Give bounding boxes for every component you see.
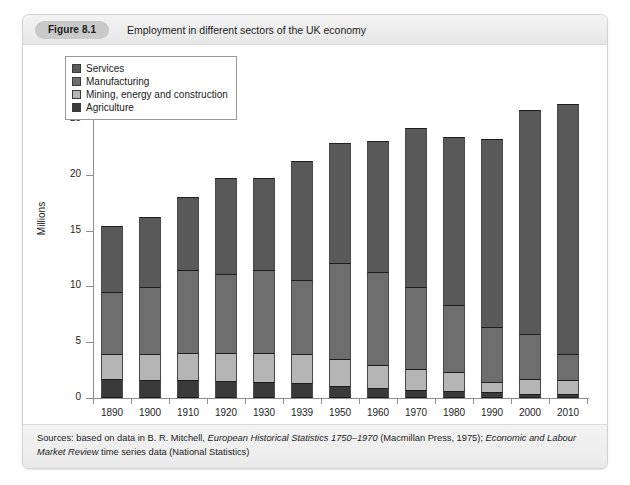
bar-segment[interactable]: [367, 272, 389, 365]
x-axis-tick: [587, 398, 588, 404]
bar-segment[interactable]: [367, 365, 389, 388]
bar-segment[interactable]: [253, 178, 275, 270]
legend-swatch-icon: [72, 103, 81, 112]
bar-stack[interactable]: [215, 178, 237, 398]
bar-stack[interactable]: [291, 161, 313, 398]
bar-segment[interactable]: [291, 280, 313, 355]
x-axis-tick: [397, 398, 398, 404]
x-axis-tick: [435, 398, 436, 404]
bar-segment[interactable]: [101, 226, 123, 292]
bar-segment[interactable]: [253, 353, 275, 382]
bar-segment[interactable]: [291, 354, 313, 383]
y-axis-tick: [86, 175, 93, 176]
x-axis-tick: [549, 398, 550, 404]
bar-segment[interactable]: [215, 178, 237, 274]
bar-segment[interactable]: [329, 263, 351, 359]
bar-stack[interactable]: [329, 143, 351, 398]
legend-item[interactable]: Manufacturing: [72, 75, 228, 88]
bar-segment[interactable]: [177, 380, 199, 398]
bar-stack[interactable]: [101, 226, 123, 398]
bar-segment[interactable]: [329, 359, 351, 386]
bar-segment[interactable]: [367, 388, 389, 398]
x-axis-tick: [93, 398, 94, 404]
bar-segment[interactable]: [253, 382, 275, 398]
bar-stack[interactable]: [177, 197, 199, 398]
x-axis-tick: [473, 398, 474, 404]
legend-swatch-icon: [72, 90, 81, 99]
x-axis-tick: [169, 398, 170, 404]
bar-segment[interactable]: [215, 274, 237, 353]
bar-segment[interactable]: [519, 379, 541, 394]
bar-segment[interactable]: [405, 390, 427, 398]
bar-segment[interactable]: [405, 128, 427, 288]
bar-segment[interactable]: [481, 392, 503, 398]
bar-segment[interactable]: [557, 104, 579, 354]
y-axis-tick: [86, 286, 93, 287]
bar-segment[interactable]: [177, 353, 199, 380]
bar-segment[interactable]: [443, 305, 465, 372]
y-axis-tick-label: 5: [41, 335, 81, 346]
bar-segment[interactable]: [481, 327, 503, 383]
bar-segment[interactable]: [519, 110, 541, 334]
legend-item-label: Manufacturing: [86, 76, 149, 87]
bar-segment[interactable]: [291, 161, 313, 279]
y-axis-tick: [86, 231, 93, 232]
figure-title: Employment in different sectors of the U…: [127, 22, 366, 38]
bar-segment[interactable]: [139, 354, 161, 380]
legend-item[interactable]: Services: [72, 62, 228, 75]
legend-item-label: Agriculture: [86, 102, 134, 113]
bar-segment[interactable]: [215, 353, 237, 381]
bar-segment[interactable]: [139, 287, 161, 354]
bar-segment[interactable]: [481, 139, 503, 327]
legend-swatch-icon: [72, 64, 81, 73]
bar-segment[interactable]: [329, 143, 351, 262]
bar-segment[interactable]: [557, 394, 579, 398]
x-axis-tick: [321, 398, 322, 404]
figure-card: Figure 8.1 Employment in different secto…: [22, 14, 608, 469]
bar-segment[interactable]: [405, 369, 427, 390]
bar-segment[interactable]: [443, 391, 465, 398]
bar-segment[interactable]: [329, 386, 351, 398]
bar-stack[interactable]: [557, 104, 579, 398]
bar-segment[interactable]: [557, 354, 579, 380]
source-middle: (Macmillan Press, 1975);: [378, 433, 486, 443]
bar-segment[interactable]: [519, 394, 541, 398]
legend-item[interactable]: Mining, energy and construction: [72, 88, 228, 101]
source-suffix: time series data (National Statistics): [98, 447, 249, 457]
bar-stack[interactable]: [481, 139, 503, 398]
bar-segment[interactable]: [215, 381, 237, 398]
legend-item[interactable]: Agriculture: [72, 101, 228, 114]
bar-segment[interactable]: [443, 137, 465, 306]
figure-header: Figure 8.1 Employment in different secto…: [23, 15, 607, 45]
bar-segment[interactable]: [519, 334, 541, 379]
bar-segment[interactable]: [253, 270, 275, 354]
bar-segment[interactable]: [405, 287, 427, 369]
bar-stack[interactable]: [405, 128, 427, 398]
bar-segment[interactable]: [481, 382, 503, 392]
bar-segment[interactable]: [291, 383, 313, 398]
bar-segment[interactable]: [139, 217, 161, 287]
x-axis-tick: [207, 398, 208, 404]
bar-segment[interactable]: [101, 354, 123, 379]
bar-stack[interactable]: [443, 137, 465, 398]
bar-segment[interactable]: [443, 372, 465, 391]
bar-segment[interactable]: [177, 197, 199, 270]
bar-segment[interactable]: [139, 380, 161, 398]
chart-plot-area: Millions 051015202530 189019001910192019…: [23, 45, 607, 426]
y-axis-tick: [86, 398, 93, 399]
x-axis-tick: [245, 398, 246, 404]
bar-segment[interactable]: [101, 292, 123, 355]
bar-segment[interactable]: [101, 379, 123, 398]
x-axis-line: [86, 398, 589, 399]
bar-stack[interactable]: [253, 158, 275, 398]
x-axis-tick: [511, 398, 512, 404]
bar-segment[interactable]: [557, 380, 579, 393]
y-axis-tick-label: 0: [41, 391, 81, 402]
bar-segment[interactable]: [367, 141, 389, 272]
bar-stack[interactable]: [367, 141, 389, 398]
bar-stack[interactable]: [519, 110, 541, 398]
figure-number-badge: Figure 8.1: [35, 21, 109, 39]
bar-segment[interactable]: [177, 270, 199, 354]
bar-stack[interactable]: [139, 217, 161, 398]
source-prefix: Sources: based on data in B. R. Mitchell…: [37, 433, 208, 443]
